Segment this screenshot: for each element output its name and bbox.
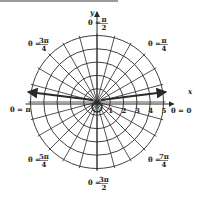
radius-tick-1: 1 [108,106,113,115]
theta-pi-4-label: θ = π4 [148,36,168,53]
svg-text:θ =: θ = [148,39,161,48]
svg-text:θ = 0: θ = 0 [171,106,191,115]
svg-text:θ = π: θ = π [10,105,31,114]
right-ray-arrow [101,92,166,100]
theta-3pi-4-label: θ = 3π4 [28,36,49,53]
left-ray-arrow [29,92,94,100]
svg-text:2: 2 [102,183,107,192]
svg-text:4: 4 [42,160,47,169]
radius-tick-4: 4 [148,106,153,115]
svg-text:θ =: θ = [88,18,101,27]
radius-tick-3: 3 [135,106,140,115]
radius-tick-5: 5 [162,106,167,115]
theta-pi-label: θ = π [10,105,31,114]
svg-text:4: 4 [162,44,167,53]
theta-7pi-4-label: θ = 7π4 [148,152,169,169]
theta-3pi-2-label: θ = 3π2 [88,175,109,192]
radius-tick-2: 2 [122,106,127,115]
theta-0-label: θ = 0 [171,106,191,115]
y-axis-label: y [89,8,95,17]
x-axis-label: x [187,87,193,96]
polar-grid-diagram: xy θ = 0θ = π4θ = π2θ = 3π4θ = πθ = 5π4θ… [0,0,199,204]
svg-text:2: 2 [102,23,107,32]
svg-text:4: 4 [42,44,47,53]
theta-5pi-4-label: θ = 5π4 [28,152,49,169]
theta-pi-2-label: θ = π2 [88,15,108,32]
svg-text:4: 4 [162,160,167,169]
